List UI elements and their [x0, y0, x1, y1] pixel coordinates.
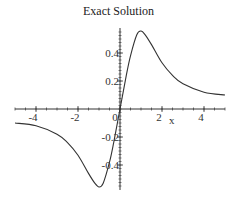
y-tick-label: 0.2 — [105, 75, 119, 87]
y-tick-label: -0.2 — [102, 131, 119, 143]
x-tick-label: -4 — [28, 111, 38, 123]
y-tick-label: 0.4 — [105, 47, 119, 59]
y-tick-label: -0.4 — [102, 159, 120, 171]
x-tick-label: 2 — [156, 111, 162, 123]
x-tick-label: -2 — [70, 111, 79, 123]
chart: Exact Solution -4-2024-0.4-0.20.20.4 x — [0, 0, 237, 206]
x-axis-label: x — [169, 114, 175, 126]
plot-area: -4-2024-0.4-0.20.20.4 x — [0, 0, 237, 206]
x-tick-label: 4 — [198, 111, 204, 123]
